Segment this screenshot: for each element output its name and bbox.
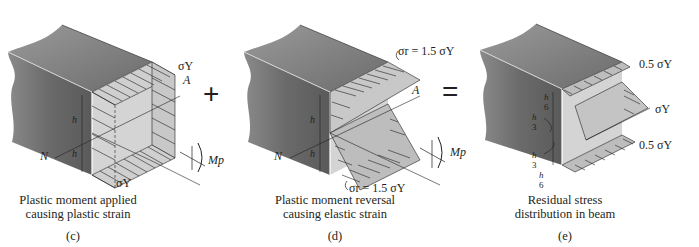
bottom-stress-label-c: σY	[116, 176, 131, 190]
h-half-bottom-label: h	[72, 148, 77, 159]
point-a-label-d: A	[411, 83, 420, 97]
caption-d-line1: Plastic moment reversal	[260, 193, 410, 207]
dim-h6-top: h	[544, 92, 549, 102]
top-stress-label-e: 0.5 σY	[639, 57, 672, 71]
figure-e	[480, 24, 650, 172]
dim-6-top: 6	[544, 102, 549, 112]
point-n-label-d: N	[273, 149, 283, 163]
caption-c-line2: causing plastic strain	[8, 207, 148, 221]
top-stress-label-d: σr = 1.5 σY	[398, 44, 455, 58]
moment-label-c: Mp	[207, 153, 224, 167]
dim-h3-bottom: h	[532, 150, 537, 160]
point-n-label-c: N	[39, 149, 49, 163]
top-stress-label-c: σY	[178, 59, 193, 73]
figure-c	[8, 25, 205, 188]
h-half-bottom-label-d: h	[310, 148, 315, 159]
dim-3-bottom: 3	[532, 160, 537, 170]
plus-operator: +	[203, 78, 219, 110]
point-a-label-c: A	[182, 73, 191, 87]
caption-d: Plastic moment reversal causing elastic …	[260, 193, 410, 221]
mid-stress-label-e: σY	[655, 102, 670, 116]
dim-h3-top: h	[532, 112, 537, 122]
dim-6-bottom: 6	[539, 180, 544, 190]
caption-d-line2: causing elastic strain	[260, 207, 410, 221]
caption-c: Plastic moment applied causing plastic s…	[8, 193, 148, 221]
caption-e: Residual stress distribution in beam	[500, 193, 630, 221]
caption-e-line1: Residual stress	[500, 193, 630, 207]
h-half-top-label: h	[72, 114, 77, 125]
moment-label-d: Mp	[449, 145, 466, 159]
bottom-stress-label-e: 0.5 σY	[639, 138, 672, 152]
figure-label-d: (d)	[320, 229, 350, 244]
caption-c-line1: Plastic moment applied	[8, 193, 148, 207]
dim-h6-bottom: h	[539, 170, 544, 180]
h-half-top-label-d: h	[310, 114, 315, 125]
dim-3-top: 3	[532, 122, 537, 132]
caption-e-line2: distribution in beam	[500, 207, 630, 221]
equals-operator: =	[442, 76, 458, 108]
figure-label-c: (c)	[58, 229, 88, 244]
figure-label-e: (e)	[550, 229, 580, 244]
